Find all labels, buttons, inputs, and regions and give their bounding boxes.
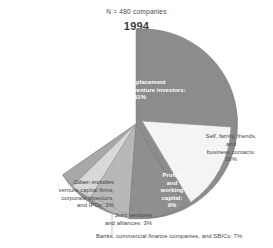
other-label-line3: corporate investors, — [61, 195, 114, 201]
slice-label-self-family: Self, family, friends, and business cont… — [192, 133, 270, 164]
self-label-line2: and — [226, 141, 236, 147]
profits-label-value: 9% — [168, 202, 177, 208]
self-label-line1: Self, family, friends, — [206, 133, 257, 139]
profits-label-line3: working — [161, 187, 184, 193]
slice-label-joint-ventures: Joint ventures and alliances: 3% — [52, 212, 152, 228]
profits-label-line4: capital: — [161, 195, 182, 201]
profits-label-line2: and — [167, 180, 178, 186]
slice-label-other: Other: includes venture capital firms, c… — [6, 179, 114, 210]
joint-label-line1: Joint ventures — [115, 212, 152, 218]
self-label-value: 18% — [225, 156, 237, 162]
joint-label-value: and alliances: 3% — [105, 220, 152, 226]
other-label-line2: venture capital firms, — [59, 187, 114, 193]
self-label-line3: business contacts: — [207, 149, 255, 155]
private-label-line2: with informal venture investors: — [95, 87, 186, 93]
private-label-line1: Private placement — [114, 79, 165, 85]
slice-label-private-placement: Private placement with informal venture … — [78, 79, 202, 102]
other-label-line1: Other: includes — [74, 179, 114, 185]
slice-label-banks: Banks, commercial finance companies, and… — [96, 233, 272, 241]
profits-label-line1: Profits — [162, 172, 181, 178]
private-label-value: 61% — [134, 94, 146, 100]
pie-graphic — [0, 0, 273, 248]
other-label-value: and IPOs: 2% — [77, 202, 114, 208]
slice-label-profits: Profits and working capital: 9% — [152, 172, 192, 210]
pie-chart-figure: N = 480 companies 1994 Private placement… — [0, 0, 273, 248]
